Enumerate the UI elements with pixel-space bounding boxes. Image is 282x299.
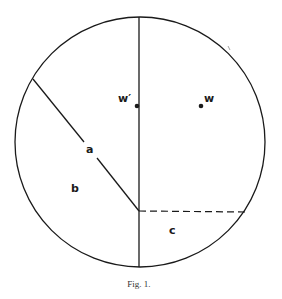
label-b: b	[71, 182, 79, 195]
diagram-figure: w′ w a b c Fig. 1.	[0, 0, 282, 299]
label-w: w	[204, 92, 214, 105]
label-w-prime: w′	[118, 92, 131, 105]
radius-a-lower	[97, 158, 139, 211]
scan-speck	[228, 46, 230, 50]
point-w-prime	[135, 104, 140, 109]
label-c: c	[169, 224, 176, 237]
figure-caption: Fig. 1.	[127, 279, 150, 289]
radius-a-upper	[33, 79, 84, 142]
dashed-chord-line	[139, 211, 246, 212]
label-a: a	[86, 143, 93, 156]
outer-circle	[15, 17, 265, 267]
point-w	[199, 104, 204, 109]
